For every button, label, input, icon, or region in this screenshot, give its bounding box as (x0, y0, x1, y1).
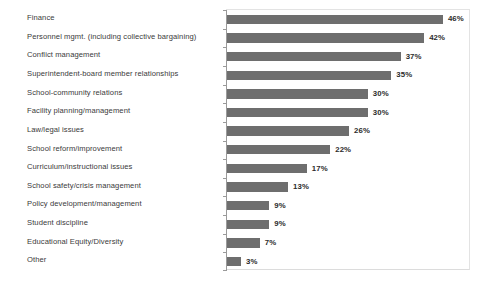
bar (227, 220, 269, 229)
bar (227, 238, 260, 247)
category-label: Other (27, 251, 218, 270)
bar-row: 35% (227, 66, 469, 85)
axis-tick (223, 234, 226, 235)
category-label: Conflict management (27, 46, 218, 65)
axis-tick (223, 270, 226, 271)
category-label-column: FinancePersonnel mgmt. (including collec… (0, 9, 222, 270)
bar-row: 3% (227, 252, 469, 271)
bar (227, 257, 241, 266)
category-label: Student discipline (27, 214, 218, 233)
bar-row: 46% (227, 10, 469, 29)
bar (227, 145, 330, 154)
bar-row: 9% (227, 196, 469, 215)
bar-row: 22% (227, 141, 469, 160)
bar-value-label: 26% (354, 125, 370, 136)
bar (227, 126, 349, 135)
axis-tick (223, 122, 226, 123)
bar-value-label: 17% (312, 163, 328, 174)
axis-tick (223, 47, 226, 48)
category-label: Law/legal issues (27, 121, 218, 140)
bar (227, 89, 368, 98)
bar-row: 42% (227, 29, 469, 48)
bar-row: 13% (227, 178, 469, 197)
axis-tick (223, 29, 226, 30)
axis-tick (223, 103, 226, 104)
bar-value-label: 37% (406, 51, 422, 62)
bar-row: 30% (227, 85, 469, 104)
bar-chart: FinancePersonnel mgmt. (including collec… (0, 0, 489, 285)
bar-value-label: 42% (429, 32, 445, 43)
bar-value-label: 9% (274, 200, 285, 211)
bar-row: 9% (227, 215, 469, 234)
bar-value-label: 35% (396, 69, 412, 80)
category-label: School reform/improvement (27, 140, 218, 159)
bar (227, 33, 424, 42)
bar (227, 52, 401, 61)
bar-value-label: 7% (265, 237, 276, 248)
axis-tick (223, 85, 226, 86)
plot-area: 46%42%37%35%30%30%26%22%17%13%9%9%7%3% (226, 9, 470, 270)
bar-row: 37% (227, 47, 469, 66)
bar-value-label: 30% (373, 107, 389, 118)
bar (227, 164, 307, 173)
bar (227, 71, 391, 80)
bar-value-label: 13% (293, 181, 309, 192)
bar-row: 26% (227, 122, 469, 141)
bar (227, 182, 288, 191)
bar-value-label: 22% (335, 144, 351, 155)
category-label: Finance (27, 9, 218, 28)
category-label: Facility planning/management (27, 102, 218, 121)
bar-value-label: 46% (448, 13, 464, 24)
category-label: Curriculum/instructional issues (27, 158, 218, 177)
category-label: Personnel mgmt. (including collective ba… (27, 28, 218, 47)
bar-row: 7% (227, 234, 469, 253)
axis-tick (223, 252, 226, 253)
axis-tick (223, 178, 226, 179)
category-label: Policy development/management (27, 195, 218, 214)
category-label: School safety/crisis management (27, 177, 218, 196)
bar-value-label: 3% (246, 256, 257, 267)
axis-tick (223, 215, 226, 216)
bar (227, 15, 443, 24)
bar (227, 201, 269, 210)
axis-tick (223, 196, 226, 197)
axis-tick (223, 10, 226, 11)
bar-value-label: 9% (274, 218, 285, 229)
category-label: Educational Equity/Diversity (27, 233, 218, 252)
axis-tick (223, 66, 226, 67)
category-label: School-community relations (27, 84, 218, 103)
bar-row: 17% (227, 159, 469, 178)
category-label: Superintendent-board member relationship… (27, 65, 218, 84)
bar (227, 108, 368, 117)
axis-tick (223, 141, 226, 142)
axis-tick (223, 159, 226, 160)
bar-row: 30% (227, 103, 469, 122)
bar-value-label: 30% (373, 88, 389, 99)
